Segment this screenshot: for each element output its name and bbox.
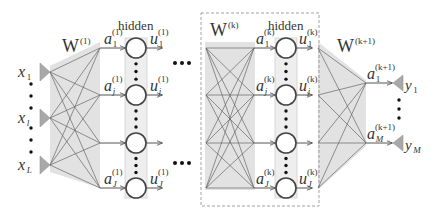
input-node-icon — [40, 156, 50, 174]
post-activation-label-sup: (1) — [158, 74, 169, 84]
post-activation-label-sub: 1 — [159, 39, 164, 49]
ellipsis-dot — [180, 61, 184, 65]
post-activation-label: u — [150, 77, 158, 94]
neuron-circle — [276, 38, 296, 58]
ellipsis-dot — [173, 161, 177, 165]
weight-sup-out: (k+1) — [355, 36, 375, 46]
output-node-icon — [393, 135, 403, 151]
output-pre-activation-label: a — [367, 125, 375, 142]
pre-activation-label: a — [256, 77, 264, 94]
pre-activation-label-sup: (1) — [112, 74, 123, 84]
ellipsis-dot — [187, 61, 191, 65]
output-label-sub: 1 — [413, 85, 418, 95]
pre-activation-label: a — [104, 77, 112, 94]
weight-sup-k: (k) — [228, 20, 239, 30]
input-label: x — [17, 63, 25, 80]
weight-sup-1: (1) — [80, 36, 91, 46]
post-activation-label-sub: j — [307, 86, 311, 96]
input-node-icon — [40, 63, 50, 81]
pre-activation-label: a — [256, 30, 264, 47]
ellipsis-dot — [284, 117, 287, 120]
weight-label-k: W — [210, 20, 227, 40]
input-node-icon — [40, 109, 50, 127]
network-diagram: x1xlxLy1yMW(1)W(k)W(k+1)hiddenhiddena1(1… — [0, 0, 440, 219]
output-pre-activation-label-sup: (k+1) — [375, 62, 395, 72]
output-node-icon — [393, 75, 403, 91]
weight-region-out — [318, 42, 366, 190]
neuron-circle — [126, 85, 146, 105]
ellipsis-dot — [284, 164, 287, 167]
weight-label-1: W — [62, 36, 79, 56]
pre-activation-label: a — [256, 170, 264, 187]
output-pre-activation-label-sub: 1 — [376, 74, 381, 84]
post-activation-label-sup: (k) — [307, 167, 318, 177]
post-activation-label-sup: (k) — [307, 27, 318, 37]
output-label: y — [403, 137, 412, 153]
neuron-circle — [276, 133, 296, 153]
post-activation-label: u — [150, 170, 158, 187]
ellipsis-dot — [284, 157, 287, 160]
output-label-sub: M — [412, 145, 421, 155]
ellipsis-dot — [134, 157, 137, 160]
neuron-circle — [126, 133, 146, 153]
pre-activation-label-sup: (k) — [264, 74, 275, 84]
pre-activation-label-sup: (k) — [264, 167, 275, 177]
neuron-circle — [276, 85, 296, 105]
pre-activation-label-sub: 1 — [265, 39, 270, 49]
output-label: y — [403, 77, 412, 93]
post-activation-label-sub: j — [158, 86, 162, 96]
weight-label-out: W — [337, 36, 354, 56]
neuron-circle — [126, 178, 146, 198]
ellipsis-dot — [29, 82, 32, 85]
input-label: x — [17, 156, 25, 173]
ellipsis-dot — [29, 138, 32, 141]
ellipsis-dot — [134, 70, 137, 73]
ellipsis-dot — [134, 164, 137, 167]
pre-activation-label-sup: (k) — [264, 27, 275, 37]
ellipsis-dot — [134, 125, 137, 128]
input-label-sub: L — [26, 165, 32, 175]
ellipsis-dot — [134, 171, 137, 174]
ellipsis-dot — [284, 109, 287, 112]
ellipsis-dot — [134, 77, 137, 80]
post-activation-label-sub: J — [159, 179, 164, 189]
pre-activation-label-sub: 1 — [113, 39, 118, 49]
input-label-sub: l — [27, 118, 30, 128]
ellipsis-dot — [284, 125, 287, 128]
weight-region-1 — [50, 42, 100, 188]
pre-activation-label: a — [104, 30, 112, 47]
pre-activation-label-sup: (1) — [112, 27, 123, 37]
ellipsis-dot — [187, 161, 191, 165]
ellipsis-dot — [29, 150, 32, 153]
ellipsis-dot — [284, 77, 287, 80]
ellipsis-dot — [173, 61, 177, 65]
post-activation-label: u — [299, 170, 307, 187]
output-pre-activation-label-sup: (k+1) — [375, 122, 395, 132]
input-label: x — [17, 109, 25, 126]
post-activation-label-sup: (1) — [158, 27, 169, 37]
hidden-label-1: hidden — [118, 18, 154, 33]
output-pre-activation-label-sub: M — [375, 134, 384, 144]
ellipsis-dot — [29, 126, 32, 129]
ellipsis-dot — [397, 98, 400, 101]
output-pre-activation-label: a — [367, 65, 375, 82]
ellipsis-dot — [180, 161, 184, 165]
post-activation-label-sup: (1) — [158, 167, 169, 177]
ellipsis-dot — [397, 107, 400, 110]
ellipsis-dot — [284, 70, 287, 73]
post-activation-label: u — [299, 30, 307, 47]
ellipsis-dot — [397, 116, 400, 119]
neuron-circle — [126, 38, 146, 58]
post-activation-label-sub: 1 — [308, 39, 313, 49]
ellipsis-dot — [134, 62, 137, 65]
pre-activation-label-sup: (1) — [112, 167, 123, 177]
input-label-sub: 1 — [27, 72, 32, 82]
ellipsis-dot — [29, 106, 32, 109]
pre-activation-label-sub: j — [264, 86, 268, 96]
ellipsis-dot — [284, 62, 287, 65]
post-activation-label: u — [150, 30, 158, 47]
ellipsis-dot — [134, 109, 137, 112]
post-activation-label: u — [299, 77, 307, 94]
pre-activation-label-sub: j — [112, 86, 116, 96]
post-activation-label-sup: (k) — [307, 74, 318, 84]
